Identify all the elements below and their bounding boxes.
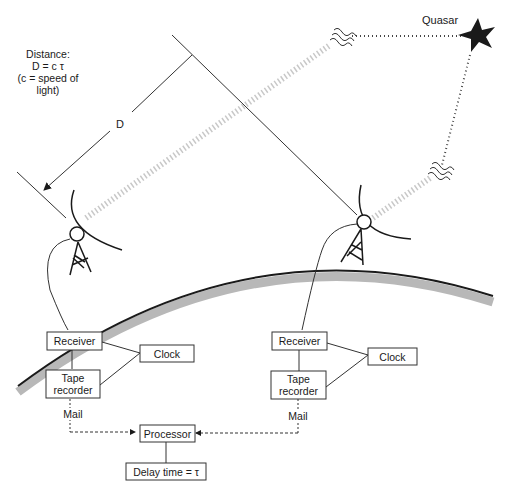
svg-text:Clock: Clock: [154, 348, 181, 360]
svg-text:Delay time = τ: Delay time = τ: [133, 466, 200, 478]
svg-text:Receiver: Receiver: [279, 335, 321, 347]
left-clock-box: Clock: [140, 345, 194, 362]
svg-text:Processor: Processor: [144, 428, 192, 440]
vlbi-diagram: Quasar D Distance: D = c τ (c = speed of…: [0, 0, 513, 496]
svg-text:Tape: Tape: [62, 372, 85, 384]
right-clock-box: Clock: [368, 348, 417, 365]
svg-text:(c = speed of: (c = speed of: [18, 72, 79, 84]
quasar-label: Quasar: [422, 14, 458, 26]
quasar-star-icon: [458, 18, 495, 52]
left-antenna-icon: [70, 190, 122, 275]
quasar-rays: [352, 36, 470, 165]
distance-symbol: D: [116, 118, 124, 130]
signal-beams: [86, 45, 430, 218]
svg-text:recorder: recorder: [53, 384, 93, 396]
svg-text:Clock: Clock: [379, 351, 406, 363]
left-mail-label: Mail: [63, 408, 82, 420]
left-tape-recorder-box: Tape recorder: [46, 370, 100, 398]
wave-icon-bottom: [428, 162, 454, 180]
svg-text:light): light): [37, 84, 60, 96]
distance-note: Distance: D = c τ (c = speed of light): [18, 48, 79, 96]
delay-time-box: Delay time = τ: [126, 463, 206, 480]
svg-text:Receiver: Receiver: [54, 335, 96, 347]
right-tape-recorder-box: Tape recorder: [271, 371, 326, 399]
wave-icon-top: [330, 28, 356, 46]
right-receiver-box: Receiver: [272, 332, 327, 350]
right-mail-label: Mail: [288, 410, 307, 422]
svg-text:Tape: Tape: [287, 373, 310, 385]
svg-text:D = c τ: D = c τ: [32, 60, 65, 72]
svg-text:Distance:: Distance:: [26, 48, 70, 60]
svg-text:recorder: recorder: [279, 385, 319, 397]
left-receiver-box: Receiver: [47, 332, 102, 350]
processor-box: Processor: [140, 425, 195, 442]
